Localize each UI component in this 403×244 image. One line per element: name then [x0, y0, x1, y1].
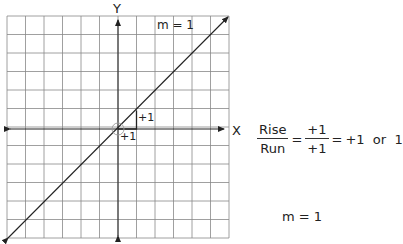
fraction-denominator: +1: [305, 139, 328, 155]
slope-label: m = 1: [157, 19, 194, 31]
slope-conclusion: m = 1: [282, 210, 322, 223]
y-axis-label: Y: [113, 2, 121, 15]
rise-label: +1: [138, 112, 154, 123]
fraction-numerator: Rise: [257, 123, 288, 139]
equals-sign: =: [291, 132, 302, 147]
slope-equation: Rise Run = +1 +1 = +1 or 1: [257, 123, 403, 155]
rise-over-run-fraction: Rise Run: [257, 123, 288, 155]
rise-run-triangle: [118, 111, 137, 130]
fraction-denominator: Run: [258, 139, 287, 155]
equation-result: +1 or 1: [345, 132, 402, 147]
fraction-numerator: +1: [305, 123, 328, 139]
run-label: +1: [120, 131, 136, 142]
x-axis-label: X: [232, 124, 241, 137]
equals-sign: =: [332, 132, 343, 147]
value-fraction: +1 +1: [305, 123, 328, 155]
